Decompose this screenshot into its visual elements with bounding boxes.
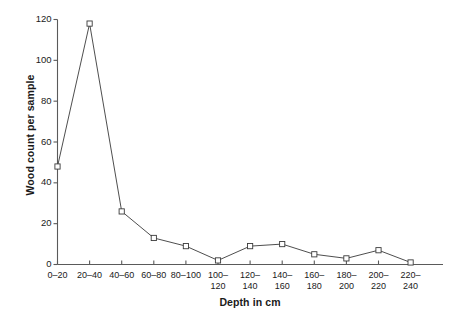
- data-point-marker[interactable]: [55, 164, 60, 169]
- data-point-marker[interactable]: [215, 258, 220, 263]
- data-point-marker[interactable]: [408, 260, 413, 265]
- data-point-marker[interactable]: [248, 244, 253, 249]
- x-tick-label-line: 220–: [389, 270, 433, 281]
- y-tick-label: 100: [26, 55, 52, 65]
- data-point-marker[interactable]: [151, 235, 156, 240]
- y-tick-label: 20: [26, 218, 52, 228]
- data-point-marker[interactable]: [312, 252, 317, 257]
- data-point-marker[interactable]: [183, 244, 188, 249]
- chart-axes: [54, 20, 444, 265]
- y-tick-label: 40: [26, 177, 52, 187]
- y-tick-label: 120: [26, 14, 52, 24]
- data-point-marker[interactable]: [344, 256, 349, 261]
- y-tick-label: 60: [26, 137, 52, 147]
- x-tick-label: 220–240: [389, 270, 433, 292]
- data-point-marker[interactable]: [119, 209, 124, 214]
- chart-series-line: [55, 21, 413, 265]
- data-point-marker[interactable]: [87, 21, 92, 26]
- y-tick-label: 0: [26, 259, 52, 269]
- series-line: [58, 24, 411, 263]
- x-tick-label-line: 240: [389, 281, 433, 292]
- y-tick-label: 80: [26, 96, 52, 106]
- data-point-marker[interactable]: [280, 241, 285, 246]
- data-point-marker[interactable]: [376, 248, 381, 253]
- chart-figure: Wood count per sample Depth in cm 020406…: [0, 0, 455, 319]
